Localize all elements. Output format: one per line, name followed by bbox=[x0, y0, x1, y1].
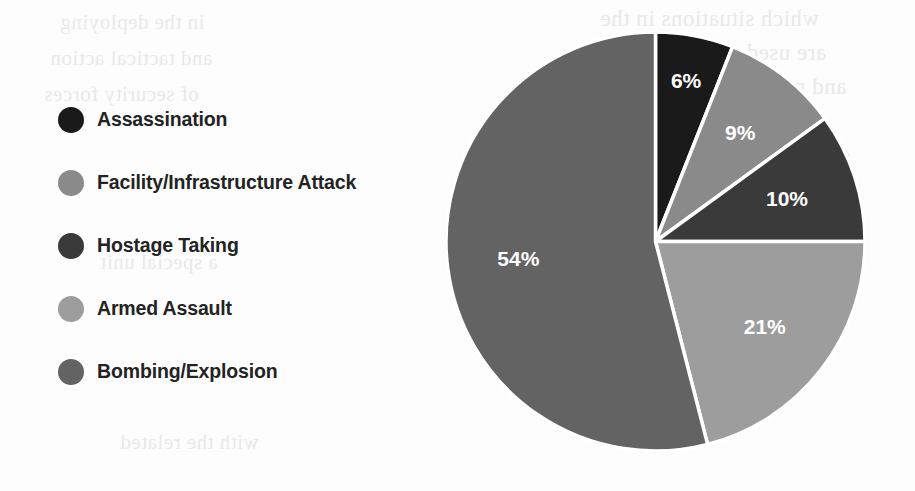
pie-slice-label: 21% bbox=[744, 315, 786, 338]
bleed-text-line: and tactical action bbox=[50, 46, 212, 71]
chart-legend: Assassination Facility/Infrastructure At… bbox=[58, 88, 428, 403]
legend-item-label: Bombing/Explosion bbox=[97, 360, 278, 383]
pie-chart-page: which situations in the are used and how… bbox=[0, 0, 915, 491]
legend-item-label: Hostage Taking bbox=[97, 234, 239, 257]
pie-slice-label: 6% bbox=[671, 69, 702, 92]
legend-swatch-icon bbox=[58, 233, 84, 259]
pie-slice-group bbox=[446, 32, 865, 451]
legend-item-label: Facility/Infrastructure Attack bbox=[97, 171, 356, 194]
bleed-text-line: which situations in the bbox=[600, 6, 819, 32]
legend-item-bombing-explosion[interactable]: Bombing/Explosion bbox=[58, 340, 428, 403]
bleed-text-line: in the deploying bbox=[60, 10, 204, 35]
legend-swatch-icon bbox=[58, 170, 84, 196]
pie-chart: 6%9%10%21%54% bbox=[446, 32, 865, 451]
pie-slice-label: 10% bbox=[766, 187, 808, 210]
pie-chart-svg: 6%9%10%21%54% bbox=[446, 32, 865, 451]
legend-item-armed-assault[interactable]: Armed Assault bbox=[58, 277, 428, 340]
legend-item-label: Assassination bbox=[97, 108, 227, 131]
legend-item-facility-infrastructure-attack[interactable]: Facility/Infrastructure Attack bbox=[58, 151, 428, 214]
legend-swatch-icon bbox=[58, 359, 84, 385]
legend-item-assassination[interactable]: Assassination bbox=[58, 88, 428, 151]
pie-slice-label: 54% bbox=[497, 247, 539, 270]
legend-item-hostage-taking[interactable]: Hostage Taking bbox=[58, 214, 428, 277]
legend-item-label: Armed Assault bbox=[97, 297, 232, 320]
bleed-text-line: with the related bbox=[120, 430, 259, 455]
legend-swatch-icon bbox=[58, 107, 84, 133]
pie-slice-label: 9% bbox=[725, 121, 756, 144]
legend-swatch-icon bbox=[58, 296, 84, 322]
